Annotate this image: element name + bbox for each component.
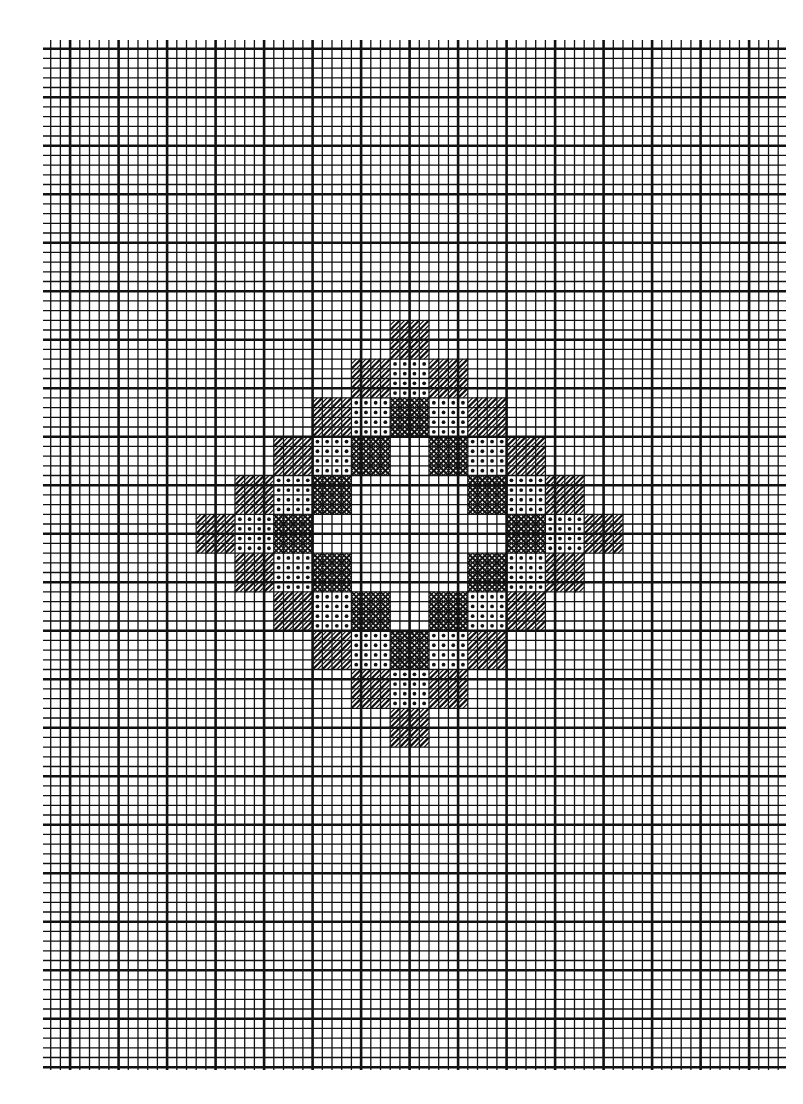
dot-stitch: [413, 692, 417, 696]
dot-stitch: [422, 692, 426, 696]
hatch-stitch: [439, 699, 449, 709]
dot-stitch: [558, 546, 562, 550]
hatch-stitch: [313, 427, 323, 437]
cross-stitch: [313, 505, 323, 515]
dot-stitch: [461, 420, 465, 424]
hatch-stitch: [497, 660, 507, 670]
dot-stitch: [500, 605, 504, 609]
dot-stitch: [422, 682, 426, 686]
cross-stitch: [322, 495, 332, 505]
cross-stitch: [381, 602, 391, 612]
hatch-stitch: [400, 718, 410, 728]
hatch-stitch: [594, 543, 604, 553]
hatch-stitch: [390, 708, 400, 718]
hatch-stitch: [381, 379, 391, 389]
hatch-stitch: [478, 427, 488, 437]
dot-stitch: [267, 537, 271, 541]
dot-stitch: [364, 653, 368, 657]
dot-stitch: [286, 556, 290, 560]
dot-stitch: [403, 702, 407, 706]
hatch-stitch: [575, 553, 585, 563]
hatch-stitch: [254, 573, 264, 583]
hatch-stitch: [303, 466, 313, 476]
dot-stitch: [422, 391, 426, 395]
hatch-stitch: [545, 563, 555, 573]
hatch-stitch: [439, 679, 449, 689]
hatch-stitch: [458, 379, 468, 389]
hatch-stitch: [555, 495, 565, 505]
hatch-stitch: [332, 660, 342, 670]
dot-stitch: [374, 411, 378, 415]
hatch-stitch: [458, 670, 468, 680]
hatch-stitch: [429, 689, 439, 699]
hatch-stitch: [322, 640, 332, 650]
dot-stitch: [529, 478, 533, 482]
hatch-stitch: [274, 592, 284, 602]
cross-stitch: [313, 582, 323, 592]
hatch-stitch: [575, 485, 585, 495]
dot-stitch: [267, 517, 271, 521]
cross-stitch: [313, 476, 323, 486]
hatch-stitch: [313, 631, 323, 641]
cross-stitch: [516, 514, 526, 524]
hatch-stitch: [284, 602, 294, 612]
cross-stitch: [274, 543, 284, 553]
cross-stitch: [361, 592, 371, 602]
hatch-stitch: [526, 446, 536, 456]
dot-stitch: [374, 634, 378, 638]
hatch-stitch: [555, 563, 565, 573]
dot-stitch: [277, 556, 281, 560]
hatch-stitch: [439, 359, 449, 369]
cross-stitch: [448, 611, 458, 621]
cross-stitch: [293, 543, 303, 553]
dot-stitch: [432, 401, 436, 405]
dot-stitch: [325, 605, 329, 609]
dot-stitch: [577, 537, 581, 541]
cross-stitch: [381, 592, 391, 602]
dot-stitch: [519, 498, 523, 502]
cross-stitch: [458, 466, 468, 476]
dot-stitch: [277, 478, 281, 482]
hatch-stitch: [390, 737, 400, 747]
cross-stitch: [284, 534, 294, 544]
cross-stitch: [313, 495, 323, 505]
hatch-stitch: [245, 553, 255, 563]
hatch-stitch: [351, 689, 361, 699]
cross-stitch: [429, 611, 439, 621]
dot-stitch: [471, 469, 475, 473]
cross-stitch: [274, 514, 284, 524]
dot-stitch: [306, 585, 310, 589]
hatch-stitch: [439, 670, 449, 680]
dot-stitch: [335, 614, 339, 618]
dot-stitch: [374, 420, 378, 424]
hatch-stitch: [478, 650, 488, 660]
hatch-stitch: [274, 437, 284, 447]
dot-stitch: [529, 556, 533, 560]
dot-stitch: [345, 469, 349, 473]
cross-stitch: [390, 631, 400, 641]
cross-stitch: [439, 437, 449, 447]
hatch-stitch: [497, 398, 507, 408]
cross-stitch: [487, 582, 497, 592]
dot-stitch: [238, 537, 242, 541]
hatch-stitch: [342, 398, 352, 408]
cross-stitch: [390, 408, 400, 418]
hatch-stitch: [478, 640, 488, 650]
cross-stitch: [342, 476, 352, 486]
hatch-stitch: [196, 514, 206, 524]
dot-stitch: [364, 411, 368, 415]
dot-stitch: [413, 702, 417, 706]
hatch-stitch: [371, 359, 381, 369]
dot-stitch: [529, 508, 533, 512]
hatch-stitch: [507, 446, 517, 456]
cross-stitch: [468, 476, 478, 486]
dot-stitch: [296, 508, 300, 512]
dot-stitch: [519, 575, 523, 579]
dot-stitch: [393, 391, 397, 395]
dot-stitch: [335, 605, 339, 609]
hatch-stitch: [322, 398, 332, 408]
dot-stitch: [413, 381, 417, 385]
hatch-stitch: [565, 485, 575, 495]
dot-stitch: [354, 634, 358, 638]
dot-stitch: [345, 440, 349, 444]
